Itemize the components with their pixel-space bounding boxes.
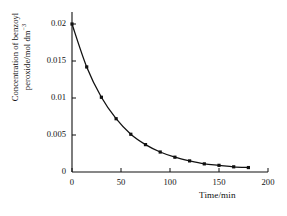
x-tick-label: 0 <box>52 177 92 187</box>
y-tick-label: 0.02 <box>20 18 66 28</box>
x-tick-label: 100 <box>150 177 190 187</box>
data-point-marker <box>232 165 235 168</box>
data-markers <box>70 22 250 169</box>
data-point-marker <box>247 166 250 169</box>
x-axis-ticks <box>72 168 268 172</box>
data-point-marker <box>115 117 118 120</box>
data-point-marker <box>144 143 147 146</box>
x-tick-label: 150 <box>199 177 239 187</box>
chart-figure: Concentration of benzoyl peroxide/mol dm… <box>0 0 287 216</box>
plot-area <box>0 0 287 216</box>
y-tick-label: 0.01 <box>20 92 66 102</box>
y-tick-label: 0.015 <box>20 55 66 65</box>
x-tick-label: 50 <box>101 177 141 187</box>
x-tick-label: 200 <box>248 177 287 187</box>
data-point-marker <box>129 133 132 136</box>
data-point-marker <box>188 159 191 162</box>
data-point-marker <box>100 96 103 99</box>
data-point-marker <box>173 156 176 159</box>
data-point-marker <box>85 65 88 68</box>
y-axis-ticks <box>72 24 76 135</box>
data-point-marker <box>217 164 220 167</box>
data-point-marker <box>70 22 73 25</box>
axis-lines <box>72 12 268 172</box>
y-tick-label: 0 <box>20 166 66 176</box>
y-tick-label: 0.005 <box>20 129 66 139</box>
data-point-marker <box>159 150 162 153</box>
data-point-marker <box>203 162 206 165</box>
data-curve <box>72 24 248 168</box>
